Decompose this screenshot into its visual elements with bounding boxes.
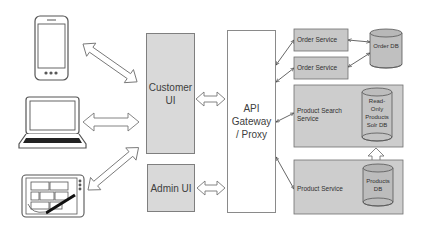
products-db-label-line1: Products xyxy=(363,177,393,185)
admin-ui-to-gateway-arrow xyxy=(197,181,225,195)
gateway-label-line2: Gateway xyxy=(232,115,271,128)
order-service-2-label: Order Service xyxy=(297,64,337,72)
gateway-label-line3: / Proxy xyxy=(236,128,267,141)
gateway-to-product-search-arrow xyxy=(276,113,294,122)
solr-db-label-line1: Read- xyxy=(362,97,392,105)
tablet-to-customer-ui-arrow xyxy=(83,141,144,196)
laptop-to-customer-ui-arrow xyxy=(83,113,139,131)
product-service-label: Product Service xyxy=(297,185,343,193)
customer-ui-label-line2: UI xyxy=(166,94,176,107)
laptop-icon xyxy=(19,97,86,148)
gateway-to-product-service-arrow xyxy=(276,157,294,189)
solr-db-label-line3: Products xyxy=(362,113,392,121)
products-db-label-line2: DB xyxy=(363,185,393,193)
product-search-label-line2: Service xyxy=(297,115,342,123)
products-db-label: Products DB xyxy=(363,177,393,193)
customer-ui-box: Customer UI xyxy=(146,33,195,154)
order-service-2-to-order-db-arrow xyxy=(348,53,370,67)
customer-ui-to-gateway-arrow xyxy=(196,92,225,106)
solr-db-label: Read- Only Products Solr DB xyxy=(362,97,392,129)
gateway-to-order-service-2-arrow xyxy=(276,68,294,82)
order-db-label: Order DB xyxy=(370,42,402,50)
solr-db-label-line2: Only xyxy=(362,105,392,113)
smartphone-icon xyxy=(35,16,68,80)
admin-ui-label: Admin UI xyxy=(150,182,191,195)
smartphone-to-customer-ui-arrow xyxy=(78,37,141,88)
product-search-label-line1: Product Search xyxy=(297,107,342,115)
api-gateway-box: API Gateway / Proxy xyxy=(227,30,276,213)
order-service-1-label: Order Service xyxy=(297,36,337,44)
gateway-to-order-service-1-arrow xyxy=(276,40,294,65)
order-service-1-to-order-db-arrow xyxy=(348,40,370,42)
tablet-icon xyxy=(22,175,84,217)
admin-ui-box: Admin UI xyxy=(147,164,195,212)
gateway-label-line1: API xyxy=(243,102,259,115)
customer-ui-label-line1: Customer xyxy=(149,81,192,94)
product-search-service-label: Product Search Service xyxy=(297,107,342,123)
solr-db-label-line4: Solr DB xyxy=(362,121,392,129)
